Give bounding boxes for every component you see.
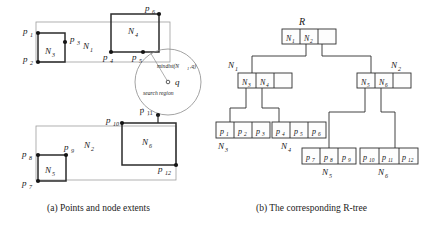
- point-label-p4-name: p: [102, 52, 108, 62]
- tree-leaf-n3-cell-0-name: p: [219, 127, 224, 136]
- data-point-p8: [36, 153, 40, 157]
- tree-leaf-n6-cell-2-sub: 12: [408, 157, 414, 163]
- tree-leaf-n3-cell-2-sub: 3: [261, 131, 265, 137]
- node-label-n6: N 6: [141, 137, 152, 149]
- node-label-n1-sub: 1: [90, 47, 93, 53]
- point-label-p8: p 8: [21, 149, 32, 161]
- data-point-p2: [36, 60, 40, 64]
- mindist-label-prefix: mindist(N: [157, 63, 179, 70]
- tree-leaf-n5-cell-1-sub: 8: [330, 157, 333, 163]
- node-label-n2-sub: 2: [91, 146, 94, 152]
- tree-root-cell-1-name: N: [303, 34, 310, 43]
- tree-leaf-n5-cell-2-sub: 9: [348, 157, 351, 163]
- data-point-p10: [120, 121, 124, 125]
- data-point-p3: [63, 40, 67, 44]
- tree-node-n1-cell-0-name: N: [241, 78, 248, 87]
- point-label-p6-sub: 6: [152, 9, 155, 15]
- point-label-p7-sub: 7: [29, 184, 33, 190]
- point-label-p8-sub: 8: [29, 155, 32, 161]
- point-label-p8-name: p: [21, 149, 27, 159]
- tree-node-n2-cell-0-name: N: [360, 78, 367, 87]
- tree-leaf-n4-label-sub: 4: [288, 147, 291, 153]
- tree-node-n2: N 2 N 5 N 6: [357, 60, 411, 96]
- tree-leaf-n6-cell-0-name: p: [362, 153, 367, 162]
- tree-leaf-n5: p 7 p 8 p 9 N 5: [302, 148, 356, 179]
- data-point-p1: [36, 31, 40, 35]
- tree-leaf-n3: p 1 p 2 p 3 N 3: [216, 122, 270, 153]
- tree-leaf-n6-cell-2-name: p: [401, 153, 406, 162]
- point-label-p3-sub: 3: [76, 40, 80, 46]
- point-label-p12: p 12: [157, 164, 171, 176]
- point-label-p7-name: p: [21, 178, 27, 188]
- tree-leaf-n3-cell-1-sub: 2: [244, 131, 247, 137]
- node-label-n6-sub: 6: [149, 143, 152, 149]
- tree-node-n2-cell-1-name: N: [378, 78, 385, 87]
- node-label-n1-name: N: [82, 41, 90, 51]
- node-label-n4-name: N: [127, 26, 135, 36]
- point-label-p1-name: p: [22, 26, 28, 36]
- point-label-p11-sub: 11: [147, 110, 153, 117]
- tree-leaf-n4-cell-0-sub: 4: [282, 131, 285, 137]
- tree-node-n1: N 1 N 3 N 4: [227, 60, 292, 96]
- node-label-n6-name: N: [141, 137, 149, 147]
- data-point-p4: [109, 50, 113, 54]
- node-label-n1: N 1: [82, 41, 93, 53]
- node-label-n3-sub: 3: [51, 52, 55, 58]
- tree-leaf-n4-cell-0-name: p: [275, 127, 280, 136]
- tree-node-n2-label-sub: 2: [398, 66, 401, 72]
- tree-leaf-n5-label-name: N: [321, 167, 329, 177]
- node-label-n2-name: N: [83, 140, 91, 150]
- tree-root-cell-1-sub: 2: [310, 38, 313, 44]
- tree-leaf-n6: p 10 p 11 p 12 N 6: [360, 148, 418, 179]
- mindist-label: mindist(N 1 ,q): [157, 63, 196, 71]
- node-label-n3: N 3: [44, 46, 55, 58]
- tree-leaf-n4-cell-2-sub: 6: [318, 131, 321, 137]
- point-label-p9-sub: 9: [71, 148, 74, 154]
- point-label-p1-sub: 1: [30, 32, 33, 38]
- tree-leaf-n3-cell-1-name: p: [237, 127, 242, 136]
- tree-node-n2-label-name: N: [390, 60, 398, 70]
- node-label-n3-name: N: [44, 46, 52, 56]
- point-label-p11-name: p: [138, 105, 145, 116]
- tree-leaf-n6-label-sub: 6: [385, 173, 388, 179]
- node-label-n5-name: N: [44, 165, 52, 175]
- data-point-p7: [36, 179, 40, 183]
- point-label-p5-name: p: [131, 52, 137, 62]
- point-label-p2: p 2: [22, 54, 33, 66]
- tree-leaf-n3-cell-2-name: p: [255, 127, 260, 136]
- mindist-label-sub: 1: [187, 66, 189, 71]
- point-label-p3-name: p: [69, 34, 75, 44]
- data-point-p5: [141, 50, 145, 54]
- tree-node-n1-cell-1-sub: 4: [266, 82, 269, 88]
- node-label-n2: N 2: [83, 140, 94, 152]
- tree-root-cell-0-name: N: [285, 34, 292, 43]
- point-label-p1: p 1: [22, 26, 33, 38]
- mindist-label-suffix: ,q): [190, 63, 196, 70]
- point-label-p4-sub: 4: [110, 58, 113, 64]
- point-label-p12-sub: 12: [165, 170, 171, 176]
- tree-node-n1-cell-1-name: N: [259, 78, 266, 87]
- tree-node-n1-label-sub: 1: [235, 66, 238, 72]
- tree-root-label: R: [298, 16, 305, 27]
- panel-a-points-and-node-extents: p 1 p 2 p 3 p 4 p 5 p 6 p 7 p 8: [21, 3, 201, 190]
- point-label-p6: p 6: [144, 3, 155, 15]
- data-point-p12: [174, 163, 178, 167]
- tree-leaf-n4-label-name: N: [280, 141, 288, 151]
- node-extent-n2: [36, 126, 176, 180]
- tree-node-n1-cell-0-sub: 3: [247, 82, 251, 88]
- data-point-p9: [64, 153, 68, 157]
- panel-b-r-tree: R N 1 N 2 N 1 N 3: [216, 16, 418, 179]
- figure-r-tree-nearest-neighbor: p 1 p 2 p 3 p 4 p 5 p 6 p 7 p 8: [0, 0, 421, 228]
- point-label-p6-name: p: [144, 3, 150, 13]
- node-label-n5-sub: 5: [52, 171, 55, 177]
- tree-node-n2-cell-0-sub: 5: [367, 82, 370, 88]
- caption-panel-a: (a) Points and node extents: [47, 203, 150, 213]
- node-label-n4: N 4: [127, 26, 138, 38]
- tree-leaf-n3-label-name: N: [217, 141, 225, 151]
- node-label-n4-sub: 4: [135, 32, 138, 38]
- tree-leaf-n5-cell-0-name: p: [305, 153, 310, 162]
- data-point-p6: [157, 12, 161, 16]
- tree-leaf-n3-cell-0-sub: 1: [226, 131, 229, 137]
- tree-leaf-n5-cell-2-name: p: [341, 153, 346, 162]
- point-label-p2-name: p: [22, 54, 28, 64]
